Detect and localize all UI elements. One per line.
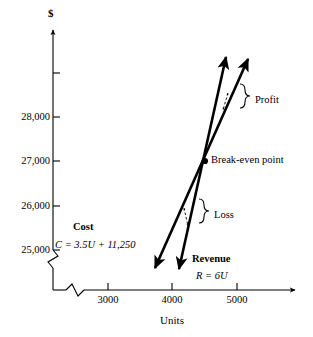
breakeven-chart: $ 28,000 27,000 26,000 25,000 3000 4000 … (0, 0, 313, 337)
y-axis-unit-label: $ (48, 8, 54, 19)
y-tick-label-28000: 28,000 (2, 112, 50, 123)
cost-equation-label: C = 3.5U + 11,250 (55, 240, 135, 251)
profit-label: Profit (255, 95, 279, 106)
y-tick-marks (53, 73, 60, 250)
profit-brace-icon (240, 84, 250, 108)
x-tick-label-5000: 5000 (212, 295, 262, 306)
y-tick-label-25000: 25,000 (2, 245, 50, 256)
loss-gap-arrow (184, 208, 188, 226)
break-even-point-label: Break-even point (211, 155, 284, 166)
revenue-series-label: Revenue (192, 254, 231, 265)
chart-canvas (0, 0, 313, 337)
revenue-equation-label: R = 6U (196, 271, 228, 282)
x-tick-label-4000: 4000 (147, 295, 197, 306)
x-axis-title: Units (147, 315, 197, 326)
loss-label: Loss (214, 210, 234, 221)
y-tick-label-26000: 26,000 (2, 201, 50, 212)
x-tick-label-3000: 3000 (83, 295, 133, 306)
x-tick-marks (108, 283, 237, 290)
y-tick-label-27000: 27,000 (2, 156, 50, 167)
loss-brace-icon (199, 199, 209, 223)
break-even-point-marker (202, 158, 208, 164)
cost-series-label: Cost (73, 222, 93, 233)
